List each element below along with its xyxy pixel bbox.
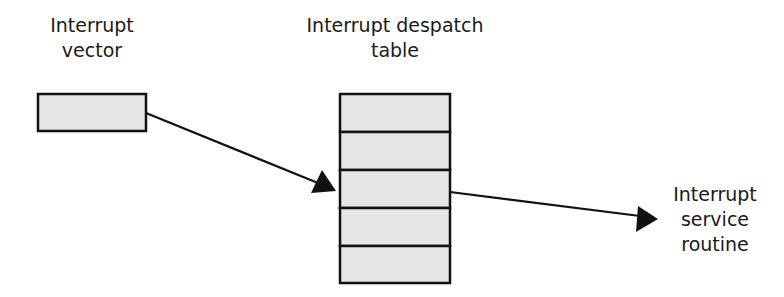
despatch-table xyxy=(340,94,450,283)
table-row xyxy=(340,170,450,208)
label-line: Interrupt xyxy=(655,182,775,207)
table-row xyxy=(340,208,450,246)
interrupt-vector-box xyxy=(38,94,146,131)
label-line: service xyxy=(655,207,775,232)
label-line: Interrupt despatch xyxy=(285,13,505,38)
table-row xyxy=(340,94,450,132)
arrow-table-to-routine xyxy=(450,192,658,232)
table-row xyxy=(340,132,450,170)
despatch-table-label: Interrupt despatch table xyxy=(285,13,505,63)
label-line: table xyxy=(285,38,505,63)
arrow-vector-to-table xyxy=(146,113,336,193)
label-line: routine xyxy=(655,232,775,257)
interrupt-vector-label: Interrupt vector xyxy=(22,13,162,63)
label-line: Interrupt xyxy=(22,13,162,38)
service-routine-label: Interrupt service routine xyxy=(655,182,775,257)
label-line: vector xyxy=(22,38,162,63)
table-row xyxy=(340,246,450,283)
